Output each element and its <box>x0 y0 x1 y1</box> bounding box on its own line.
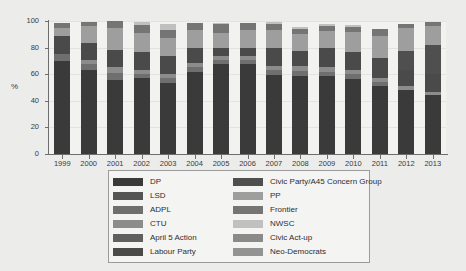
legend-swatch-icon <box>113 248 143 256</box>
legend-swatch-icon <box>233 248 263 256</box>
y-axis-tick-label: 100 <box>13 17 39 25</box>
bar-segment <box>266 66 282 71</box>
bar-segment <box>398 51 414 70</box>
bar-segment <box>292 29 308 34</box>
legend-entry[interactable]: LSD <box>113 189 233 202</box>
y-axis-tick <box>45 154 49 155</box>
legend-swatch-icon <box>113 178 143 186</box>
y-axis-tick <box>45 127 49 128</box>
bar-segment <box>81 60 97 64</box>
bar-segment <box>345 27 361 32</box>
legend-label: ADPL <box>150 206 171 214</box>
bar-segment <box>187 23 203 30</box>
legend-label: Neo-Democrats <box>270 248 326 256</box>
bar-segment <box>160 83 176 154</box>
bar-2003 <box>160 21 176 154</box>
bar-segment <box>266 75 282 154</box>
legend-label: Civic Party/A45 Concern Group <box>270 178 382 186</box>
y-axis-label: % <box>11 82 18 91</box>
bar-segment <box>134 70 150 74</box>
legend-swatch-icon <box>113 206 143 214</box>
bar-segment <box>81 22 97 26</box>
legend-swatch-icon <box>233 178 263 186</box>
bar-segment <box>266 48 282 66</box>
bar-segment <box>266 70 282 75</box>
bar-segment <box>319 24 335 26</box>
bar-segment <box>240 30 256 48</box>
legend-swatch-icon <box>233 220 263 228</box>
bar-segment <box>134 22 150 25</box>
bar-segment <box>107 21 123 28</box>
bar-2000 <box>81 21 97 154</box>
legend-column-right: Civic Party/A45 Concern GroupPPFrontierN… <box>233 175 382 258</box>
bar-segment <box>319 67 335 72</box>
bar-segment <box>398 28 414 51</box>
legend-label: Civic Act-up <box>270 234 312 242</box>
bar-segment <box>398 90 414 154</box>
bar-2010 <box>345 21 361 154</box>
bar-segment <box>213 64 229 154</box>
bar-segment <box>240 23 256 30</box>
y-axis-tick <box>45 21 49 22</box>
legend-entry[interactable]: DP <box>113 175 233 188</box>
legend-entry[interactable]: NWSC <box>233 217 382 230</box>
bar-segment <box>213 56 229 61</box>
bar-2007 <box>266 21 282 154</box>
bar-segment <box>292 71 308 76</box>
bar-segment <box>319 48 335 67</box>
legend-entry[interactable]: CTU <box>113 217 233 230</box>
legend-label: April 5 Action <box>150 234 197 242</box>
bar-segment <box>134 33 150 52</box>
legend-entry[interactable]: Frontier <box>233 203 382 216</box>
bar-2005 <box>213 21 229 154</box>
x-axis-tick-label: 2013 <box>417 160 449 168</box>
legend-entry[interactable]: PP <box>233 189 382 202</box>
bar-segment <box>240 48 256 56</box>
bar-segment <box>372 58 388 78</box>
bar-segment <box>107 28 123 50</box>
bar-segment <box>319 76 335 154</box>
legend-swatch-icon <box>113 220 143 228</box>
bar-2004 <box>187 21 203 154</box>
bar-segment <box>160 74 176 78</box>
bar-segment <box>425 26 441 45</box>
y-axis-tick-label: 80 <box>13 44 39 52</box>
legend-entry[interactable]: Civic Act-up <box>233 231 382 244</box>
legend-swatch-icon <box>113 234 143 242</box>
bar-2009 <box>319 21 335 154</box>
bar-segment <box>425 74 441 92</box>
bar-segment <box>81 70 97 154</box>
bar-2006 <box>240 21 256 154</box>
bar-segment <box>425 45 441 74</box>
legend-entry[interactable]: Civic Party/A45 Concern Group <box>233 175 382 188</box>
bar-segment <box>213 24 229 33</box>
bar-2008 <box>292 21 308 154</box>
bar-segment <box>54 36 70 53</box>
legend-entry[interactable]: Neo-Democrats <box>233 245 382 258</box>
y-axis-line <box>48 20 49 155</box>
bar-segment <box>187 72 203 154</box>
bar-segment <box>425 22 441 25</box>
legend-entry[interactable]: April 5 Action <box>113 231 233 244</box>
legend-inner: DPLSDADPLCTUApril 5 ActionLabour Party C… <box>113 175 365 258</box>
bar-2012 <box>398 21 414 154</box>
bar-segment <box>187 63 203 67</box>
bar-segment <box>345 70 361 75</box>
legend-swatch-icon <box>233 234 263 242</box>
bar-segment <box>266 24 282 30</box>
bar-segment <box>134 25 150 33</box>
bar-segment <box>81 64 97 70</box>
bar-segment <box>187 67 203 72</box>
legend-entry[interactable]: ADPL <box>113 203 233 216</box>
bar-segment <box>81 43 97 60</box>
legend-label: DP <box>150 178 161 186</box>
legend-entry[interactable]: Labour Party <box>113 245 233 258</box>
bar-segment <box>345 25 361 27</box>
bar-segment <box>54 23 70 28</box>
bar-segment <box>266 22 282 25</box>
bar-segment <box>160 78 176 83</box>
bar-segment <box>319 26 335 31</box>
bar-segment <box>54 28 70 37</box>
bar-segment <box>187 30 203 48</box>
y-axis-tick-label: 0 <box>13 150 39 158</box>
